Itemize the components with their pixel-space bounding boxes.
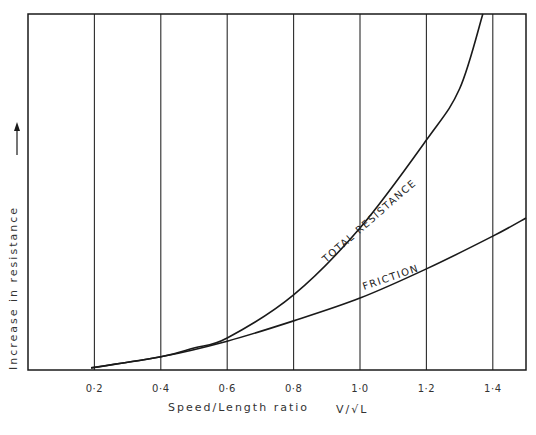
x-axis-formula: V/√L [336,403,368,416]
y-axis-label: Increase in resistance [7,206,20,370]
x-tick-label: 1·4 [484,383,501,394]
x-tick-label: 1·0 [351,383,368,394]
friction-curve [91,218,526,368]
x-axis-title: Speed/Length ratio V/√L [168,401,368,416]
arrow-up-icon [14,122,20,131]
plot-frame [28,14,526,370]
friction-label: FRICTION [361,262,420,292]
resistance-chart: 0·20·40·60·81·01·21·4 TOTAL RESISTANCE F… [0,0,536,435]
x-tick-label: 0·8 [285,383,302,394]
grid-lines [94,14,492,370]
y-axis-arrow [14,122,20,155]
total-resistance-curve [91,14,483,368]
x-tick-labels: 0·20·40·60·81·01·21·4 [86,383,502,394]
curves [91,14,526,368]
x-tick-label: 1·2 [418,383,435,394]
x-tick-label: 0·4 [152,383,169,394]
x-tick-label: 0·2 [86,383,103,394]
x-tick-label: 0·6 [218,383,235,394]
y-axis-title: Increase in resistance [7,206,20,370]
total-resistance-label: TOTAL RESISTANCE [319,177,418,265]
x-axis-label: Speed/Length ratio [168,401,309,414]
